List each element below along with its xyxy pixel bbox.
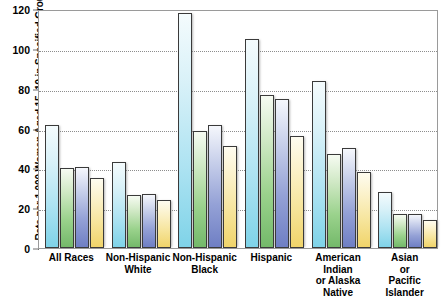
x-category-label-line: Hispanic [238,252,305,264]
bar [127,195,141,248]
bar-group [45,125,105,248]
x-category-label-line: or [371,264,438,276]
x-category-label-line: Non-Hispanic [171,252,238,264]
y-tick-label: 60 [0,124,30,136]
x-category-label: Hispanic [238,252,305,264]
x-category-label-line: Non-Hispanic [105,252,172,264]
bar [290,136,304,248]
x-category-label-line: American [305,252,372,264]
bar [142,194,156,248]
y-tick-label: 20 [0,203,30,215]
bar [45,125,59,248]
bar [90,178,104,248]
bar [357,172,371,248]
y-tick-label: 40 [0,163,30,175]
bar-group [378,192,438,248]
x-category-label-line: Asian [371,252,438,264]
x-category-label-line: Indian [305,264,372,276]
x-category-label-line: Pacific [371,275,438,287]
bar [157,200,171,248]
bar [312,81,326,248]
plot-area [38,10,438,249]
bar [275,99,289,248]
x-category-label: Non-HispanicBlack [171,252,238,275]
bar-group [178,13,238,248]
bar [408,214,422,248]
bar [327,154,341,248]
bar [378,192,392,248]
bar [178,13,192,248]
bar [423,220,437,248]
bar-chart: Rate per 1,000 Women Aged 15–19 in Speci… [0,0,442,304]
bar-group [245,39,305,248]
y-tick-label: 120 [0,4,30,16]
x-category-label-line: or Alaska [305,275,372,287]
bar [208,125,222,248]
bar [260,95,274,248]
bar [223,146,237,248]
x-category-label-line: White [105,264,172,276]
bar-group [112,162,172,248]
y-tick-label: 0 [0,243,30,255]
bar [75,167,89,248]
x-category-label-line: Black [171,264,238,276]
x-category-label: AsianorPacificIslander [371,252,438,298]
x-category-label-line: Native [305,287,372,299]
bar [245,39,259,248]
bar [193,131,207,249]
bar-group [312,81,372,248]
x-category-label: AmericanIndianor AlaskaNative [305,252,372,298]
x-category-label-line: All Races [38,252,105,264]
y-tick-label: 100 [0,44,30,56]
bar [112,162,126,248]
x-category-label: All Races [38,252,105,264]
bar [393,214,407,248]
x-category-label: Non-HispanicWhite [105,252,172,275]
y-tick-label: 80 [0,84,30,96]
bar [60,168,74,248]
bar [342,148,356,248]
x-category-label-line: Islander [371,287,438,299]
